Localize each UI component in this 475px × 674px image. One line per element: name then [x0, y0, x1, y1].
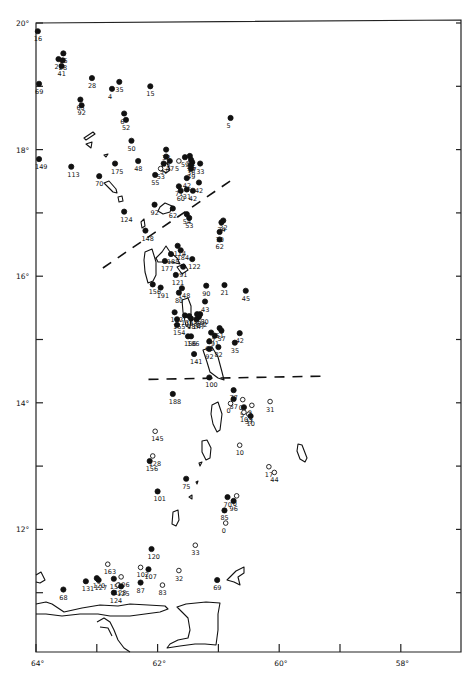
filled-circle-marker	[69, 164, 74, 169]
station-label: 48	[134, 165, 142, 173]
catch-station: 191	[157, 285, 169, 300]
filled-circle-marker	[216, 344, 221, 349]
catch-station: 28	[88, 75, 96, 90]
catch-station: 75	[182, 476, 190, 491]
filled-circle-marker	[178, 248, 183, 253]
catch-station: 52	[122, 117, 130, 132]
filled-circle-marker	[164, 154, 169, 159]
station-label: 41	[58, 70, 66, 78]
filled-circle-marker	[232, 340, 237, 345]
catch-station: 92	[151, 202, 159, 217]
station-label: 32	[175, 575, 183, 583]
y-tick-label: 18°	[16, 146, 30, 155]
station-label: 50	[127, 145, 135, 153]
open-circle-marker	[250, 403, 255, 408]
station-label: 188	[169, 398, 181, 406]
station-label: 82	[214, 351, 222, 359]
data-points: 1665272841692835415659265255014911370175…	[34, 29, 279, 605]
map-figure: 64°62°60°58°20°18°16°14°12° 166527284169…	[0, 0, 475, 674]
filled-circle-marker	[61, 51, 66, 56]
filled-circle-marker	[219, 220, 224, 225]
station-label: 156	[146, 465, 158, 473]
catch-station: 0	[222, 521, 228, 535]
catch-station: 149	[35, 156, 47, 171]
island-grenada	[172, 510, 179, 526]
station-label: 69	[35, 88, 43, 96]
open-circle-marker	[234, 494, 239, 499]
filled-circle-marker	[164, 147, 169, 152]
filled-circle-marker	[202, 299, 207, 304]
catch-station: 42	[195, 180, 203, 195]
catch-station: 31	[266, 399, 274, 413]
station-label: 62	[169, 212, 177, 220]
station-label: 16	[34, 35, 42, 43]
station-label: 5	[175, 165, 179, 173]
filled-circle-marker	[176, 290, 181, 295]
filled-circle-marker	[217, 237, 222, 242]
catch-station: 48	[134, 158, 142, 173]
station-label: 0	[222, 527, 226, 535]
catch-station: 47	[166, 158, 174, 173]
filled-circle-marker	[217, 229, 222, 234]
open-circle-marker	[119, 575, 124, 580]
filled-circle-marker	[60, 58, 65, 63]
station-label: 80	[175, 297, 183, 305]
station-label: 124	[120, 216, 132, 224]
catch-station: 4	[108, 86, 115, 101]
catch-station: 50	[127, 138, 135, 153]
coast-gulf	[100, 627, 112, 636]
filled-circle-marker	[150, 282, 155, 287]
station-label: 28	[88, 82, 96, 90]
open-circle-marker	[105, 562, 110, 567]
island-st-vincent	[202, 440, 211, 460]
catch-station: 101	[154, 489, 166, 504]
filled-circle-marker	[89, 75, 94, 80]
filled-circle-marker	[170, 391, 175, 396]
open-circle-marker	[237, 443, 242, 448]
open-circle-marker	[150, 454, 155, 459]
filled-circle-marker	[147, 458, 152, 463]
catch-station: 16	[34, 29, 42, 44]
station-label: 101	[154, 495, 166, 503]
catch-station: 69	[213, 577, 221, 592]
station-label: 148	[141, 235, 153, 243]
station-label: 124	[110, 597, 122, 605]
catch-station: 83	[158, 583, 166, 597]
catch-station: 70	[95, 174, 103, 189]
station-label: 4	[108, 93, 112, 101]
map-border	[36, 20, 461, 652]
map-frame	[36, 20, 461, 652]
coast-venezuela	[36, 602, 168, 616]
island-trinidad	[167, 602, 220, 648]
filled-circle-marker	[97, 174, 102, 179]
station-label: 122	[188, 263, 200, 271]
catch-station: 90	[202, 283, 210, 298]
catch-station: 10	[247, 413, 255, 428]
open-circle-marker	[177, 568, 182, 573]
open-circle-marker	[242, 410, 247, 415]
catch-station: 43	[201, 299, 209, 314]
station-label: 92	[78, 109, 86, 117]
catch-station: 10	[236, 443, 244, 457]
station-label: 87	[137, 587, 145, 595]
catch-station: 107	[144, 567, 156, 582]
filled-circle-marker	[184, 175, 189, 180]
filled-circle-marker	[136, 158, 141, 163]
station-label: 107	[144, 573, 156, 581]
station-label: 149	[35, 163, 47, 171]
station-label: 131	[82, 585, 94, 593]
catch-station: 131	[82, 579, 94, 594]
filled-circle-marker	[122, 111, 127, 116]
filled-circle-marker	[36, 81, 41, 86]
filled-circle-marker	[198, 161, 203, 166]
station-label: 127	[95, 584, 107, 592]
station-label: 0	[233, 500, 237, 508]
filled-circle-marker	[172, 310, 177, 315]
island-st-kitts	[104, 181, 117, 193]
station-label: 91	[179, 271, 187, 279]
y-tick-label: 12°	[16, 525, 30, 534]
filled-circle-marker	[174, 322, 179, 327]
filled-circle-marker	[79, 103, 84, 108]
filled-circle-marker	[248, 413, 253, 418]
island-st-lucia	[211, 402, 222, 432]
